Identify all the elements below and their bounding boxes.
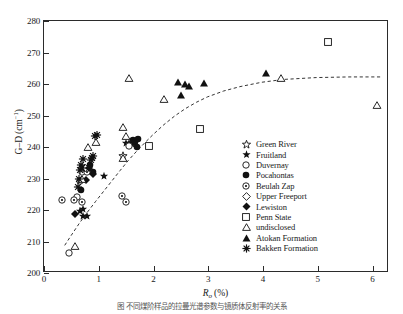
figure-container: 200210220230240250260270280 0123456 G–D … [0, 0, 403, 314]
data-point-open-triangle [276, 74, 285, 82]
data-point-filled-star [82, 211, 91, 220]
data-point-filled-triangle [184, 82, 193, 90]
open-star-icon [239, 140, 253, 149]
y-tick-label: 230 [27, 174, 40, 184]
data-point-open-triangle [125, 74, 134, 82]
x-tick-label: 1 [97, 274, 102, 284]
x-tick-mark [373, 266, 374, 271]
y-tick-mark [44, 242, 49, 243]
x-axis-title: Ro (%) [43, 288, 388, 300]
data-point-open-triangle [372, 101, 381, 109]
data-point-dot-circle [78, 198, 86, 206]
data-point-dot-circle [58, 196, 66, 204]
data-point-open-triangle [70, 242, 79, 250]
trend-line [44, 21, 387, 271]
data-point-asterisk [75, 175, 84, 184]
y-tick-mark [44, 84, 49, 85]
y-tick-label: 220 [27, 205, 40, 215]
legend-item-penn-state[interactable]: Penn State [239, 212, 318, 222]
data-point-asterisk [92, 131, 101, 140]
filled-diamond-icon [239, 202, 253, 211]
data-point-filled-triangle [262, 69, 271, 77]
open-square-icon [239, 213, 253, 221]
legend-item-label: Pocahontas [256, 170, 294, 180]
open-diamond-icon [239, 192, 253, 201]
legend-item-label: Duvernay [256, 160, 289, 170]
figure-caption: 图 不同煤阶样品的拉曼光谱参数与镜质体反射率的关系 [26, 302, 378, 313]
x-tick-label: 5 [316, 274, 321, 284]
legend-item-beulah-zap[interactable]: Beulah Zap [239, 181, 318, 191]
data-point-open-square [145, 142, 153, 150]
x-tick-mark [263, 266, 264, 271]
data-point-open-square [324, 38, 332, 46]
data-point-asterisk [73, 183, 82, 192]
dot-circle-icon [239, 182, 253, 190]
legend-item-atokan-formation[interactable]: Atokan Formation [239, 233, 318, 243]
x-tick-label: 2 [151, 274, 156, 284]
legend: Green RiverFruitlandDuvernayPocahontasBe… [239, 139, 318, 253]
x-tick-mark [44, 266, 45, 271]
y-axis-title: G–D (cm−1) [12, 67, 24, 197]
legend-item-upper-freeport[interactable]: Upper Freeport [239, 191, 318, 201]
filled-triangle-icon [239, 234, 253, 242]
x-tick-label: 4 [261, 274, 266, 284]
data-point-filled-circle [133, 143, 141, 151]
y-tick-mark [44, 210, 49, 211]
legend-item-undisclosed[interactable]: undisclosed [239, 222, 318, 232]
y-tick-label: 250 [27, 111, 40, 121]
legend-item-label: Beulah Zap [256, 181, 294, 191]
open-circle-icon [239, 161, 253, 169]
data-point-filled-diamond [89, 170, 98, 179]
data-point-open-triangle [118, 123, 127, 131]
data-point-filled-diamond [70, 209, 79, 218]
data-point-dot-circle [70, 196, 78, 204]
data-point-open-triangle [122, 132, 131, 140]
legend-item-label: Upper Freeport [256, 191, 307, 201]
y-tick-mark [44, 116, 49, 117]
asterisk-icon [239, 244, 253, 253]
legend-item-label: Atokan Formation [256, 233, 317, 243]
filled-star-icon [239, 150, 253, 159]
data-point-asterisk [87, 155, 96, 164]
x-tick-mark [99, 266, 100, 271]
data-point-dot-circle [122, 198, 130, 206]
trend-line-path [65, 77, 382, 245]
x-tick-mark [208, 266, 209, 271]
legend-item-green-river[interactable]: Green River [239, 139, 318, 149]
data-point-open-square [196, 125, 204, 133]
legend-item-label: undisclosed [256, 222, 295, 232]
y-tick-mark [44, 179, 49, 180]
legend-item-label: Green River [256, 139, 297, 149]
data-point-filled-star [100, 172, 109, 181]
y-tick-mark [44, 147, 49, 148]
legend-item-bakken-formation[interactable]: Bakken Formation [239, 243, 318, 253]
data-point-filled-triangle [176, 91, 185, 99]
data-point-open-triangle [160, 95, 169, 103]
x-tick-mark [318, 266, 319, 271]
y-tick-label: 270 [27, 48, 40, 58]
plot-area: 200210220230240250260270280 0123456 [43, 20, 388, 272]
open-triangle-icon [239, 223, 253, 231]
y-tick-mark [44, 21, 49, 22]
x-tick-label: 3 [206, 274, 211, 284]
legend-item-label: Lewiston [256, 202, 287, 212]
legend-item-label: Fruitland [256, 150, 286, 160]
y-tick-label: 240 [27, 142, 40, 152]
legend-item-pocahontas[interactable]: Pocahontas [239, 170, 318, 180]
legend-item-lewiston[interactable]: Lewiston [239, 201, 318, 211]
x-tick-label: 0 [42, 274, 47, 284]
y-tick-label: 210 [27, 237, 40, 247]
y-tick-label: 280 [27, 16, 40, 26]
y-tick-label: 260 [27, 79, 40, 89]
data-point-open-triangle [118, 154, 127, 162]
filled-circle-icon [239, 171, 253, 179]
y-tick-mark [44, 53, 49, 54]
legend-item-label: Bakken Formation [256, 243, 318, 253]
data-point-asterisk [78, 164, 87, 173]
data-point-open-circle [65, 249, 73, 257]
legend-item-label: Penn State [256, 212, 291, 222]
legend-item-fruitland[interactable]: Fruitland [239, 149, 318, 159]
y-tick-label: 200 [27, 268, 40, 278]
x-tick-label: 6 [370, 274, 375, 284]
legend-item-duvernay[interactable]: Duvernay [239, 160, 318, 170]
